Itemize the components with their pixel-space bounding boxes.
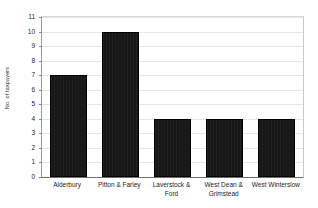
y-axis-tick-label: 9 xyxy=(31,42,35,49)
y-axis-tick-label: 10 xyxy=(28,27,35,34)
bar[interactable] xyxy=(154,119,191,177)
y-axis-tick-label: 6 xyxy=(31,85,35,92)
y-axis-tick-label: 3 xyxy=(31,129,35,136)
plot-area xyxy=(41,16,304,178)
x-axis-tick-label: Alderbury xyxy=(41,180,93,189)
bar[interactable] xyxy=(50,75,87,177)
x-axis-tick-label: West Winterslow xyxy=(250,180,302,189)
x-axis-tick-label: West Dean & Grimstead xyxy=(198,180,250,198)
x-axis-tick-label: Pitton & Farley xyxy=(93,180,145,189)
bar[interactable] xyxy=(102,32,139,177)
y-axis-tick-label: 8 xyxy=(31,56,35,63)
y-axis-title: No. of taxpayers xyxy=(0,0,14,176)
x-axis-tick-label: Laverstock & Ford xyxy=(145,180,197,198)
y-axis-title-label: No. of taxpayers xyxy=(4,67,10,109)
bar[interactable] xyxy=(206,119,243,177)
y-axis-tick-mark xyxy=(39,177,42,178)
y-axis-tick-label: 2 xyxy=(31,143,35,150)
x-axis-tick-labels: AlderburyPitton & FarleyLaverstock & For… xyxy=(41,180,302,208)
bars-layer xyxy=(42,17,303,177)
gridline xyxy=(42,177,303,178)
y-axis-tick-labels: 01234567891011 xyxy=(14,16,38,176)
y-axis-tick-label: 0 xyxy=(31,173,35,180)
y-axis-tick-label: 7 xyxy=(31,71,35,78)
bar-chart-figure: No. of taxpayers 01234567891011 Alderbur… xyxy=(0,0,318,208)
y-axis-tick-label: 1 xyxy=(31,158,35,165)
bar[interactable] xyxy=(258,119,295,177)
y-axis-tick-label: 5 xyxy=(31,100,35,107)
y-axis-tick-label: 4 xyxy=(31,114,35,121)
y-axis-tick-label: 11 xyxy=(28,13,35,20)
